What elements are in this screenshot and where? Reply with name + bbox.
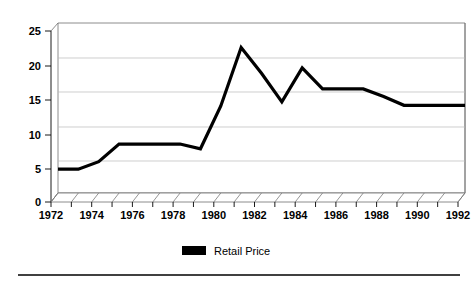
legend-swatch-retail-price — [182, 246, 206, 255]
x-axis-labels: 1972197419761978198019821984198619881990… — [39, 209, 470, 221]
chart-container: 25 20 15 10 5 0 197219741976197819801982… — [0, 0, 475, 287]
x-tick-label-1980: 1980 — [202, 209, 226, 221]
x-tick-label-1982: 1982 — [242, 209, 266, 221]
x-tick-label-1986: 1986 — [324, 209, 348, 221]
y-tick-label-20: 20 — [29, 60, 41, 72]
chart-background — [0, 0, 475, 287]
y-tick-label-10: 10 — [29, 129, 41, 141]
x-tick-label-1976: 1976 — [120, 209, 144, 221]
y-tick-label-25: 25 — [29, 25, 41, 37]
y-tick-label-5: 5 — [35, 163, 41, 175]
x-tick-label-1972: 1972 — [39, 209, 63, 221]
x-tick-label-1978: 1978 — [161, 209, 185, 221]
retail-price-line-chart: 25 20 15 10 5 0 197219741976197819801982… — [0, 0, 475, 287]
y-tick-label-15: 15 — [29, 94, 41, 106]
x-tick-label-1990: 1990 — [405, 209, 429, 221]
y-tick-label-0: 0 — [35, 196, 41, 208]
x-tick-label-1974: 1974 — [79, 209, 104, 221]
x-tick-label-1984: 1984 — [283, 209, 308, 221]
x-tick-label-1988: 1988 — [364, 209, 388, 221]
legend-label-retail-price: Retail Price — [214, 245, 270, 257]
x-tick-label-1992: 1992 — [446, 209, 470, 221]
